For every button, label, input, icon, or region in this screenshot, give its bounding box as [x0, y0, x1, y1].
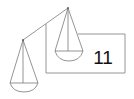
right-pan-bowl — [55, 51, 83, 61]
left-pan — [10, 40, 38, 92]
scale-beam — [23, 8, 68, 40]
right-pan — [55, 8, 83, 61]
left-pan-string-right — [23, 40, 38, 83]
balance-scale-diagram: 11 — [0, 0, 134, 99]
box-value-label: 11 — [88, 47, 118, 69]
left-pan-string-left — [10, 40, 23, 83]
left-pan-bowl — [10, 83, 38, 92]
right-pivot-point — [67, 7, 69, 9]
left-pivot-point — [22, 39, 24, 41]
right-pan-string-right — [68, 8, 83, 51]
right-pan-string-left — [55, 8, 68, 51]
